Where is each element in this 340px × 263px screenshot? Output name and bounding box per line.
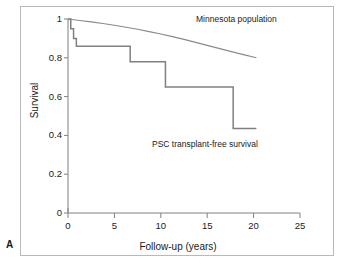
x-axis-title: Follow-up (years) bbox=[108, 241, 248, 252]
y-tick-label: 0.8 bbox=[20, 53, 62, 63]
x-tick-label: 0 bbox=[48, 221, 88, 231]
y-tick-label: 0.2 bbox=[20, 169, 62, 179]
y-tick-label: 0.6 bbox=[20, 92, 62, 102]
y-tick-label: 0.4 bbox=[20, 130, 62, 140]
y-tick-label: 1 bbox=[20, 14, 62, 24]
x-tick-label: 25 bbox=[280, 221, 320, 231]
y-axis-title: Survival bbox=[29, 61, 40, 141]
figure-panel: A 00.20.40.60.81 0510152025 Survival Fol… bbox=[0, 0, 340, 263]
y-axis-tick-marks bbox=[64, 19, 68, 213]
psc-survival-label: PSC transplant-free survival bbox=[152, 139, 258, 149]
minnesota-population-label: Minnesota population bbox=[196, 14, 277, 24]
data-series-group bbox=[68, 19, 256, 129]
x-tick-label: 5 bbox=[94, 221, 134, 231]
x-tick-label: 10 bbox=[141, 221, 181, 231]
x-tick-label: 15 bbox=[187, 221, 227, 231]
psc-transplant-free-survival-curve bbox=[68, 19, 256, 129]
y-tick-label: 0 bbox=[20, 208, 62, 218]
x-tick-label: 20 bbox=[234, 221, 274, 231]
minnesota-population-curve bbox=[68, 19, 256, 58]
axis-lines bbox=[68, 19, 300, 213]
